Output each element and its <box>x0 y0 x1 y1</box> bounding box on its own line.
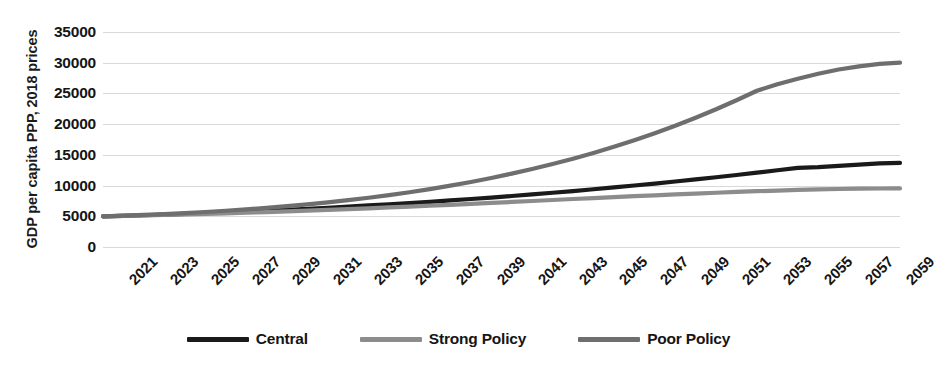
y-axis-tick-label: 30000 <box>26 54 96 72</box>
x-axis-tick-label: 2035 <box>412 253 447 288</box>
x-axis-tick-label: 2025 <box>207 253 242 288</box>
plot-area <box>103 32 900 247</box>
x-axis-tick-label: 2043 <box>575 253 610 288</box>
x-axis-tick-label: 2027 <box>248 253 283 288</box>
x-axis-tick-label: 2049 <box>698 253 733 288</box>
series-lines <box>103 32 900 247</box>
x-axis-tick-label: 2029 <box>289 253 324 288</box>
legend-item-poor-policy[interactable]: Poor Policy <box>578 330 730 348</box>
x-axis-tick-label: 2037 <box>452 253 487 288</box>
y-axis-tick-labels: 35000300002500020000150001000050000 <box>26 0 96 373</box>
legend-swatch <box>578 337 640 342</box>
legend-label: Central <box>256 330 308 348</box>
legend-item-strong-policy[interactable]: Strong Policy <box>360 330 526 348</box>
x-axis-tick-label: 2055 <box>820 253 855 288</box>
y-axis-tick-label: 10000 <box>26 177 96 195</box>
x-axis-tick-labels: 2021202320252027202920312033203520372039… <box>103 247 900 325</box>
x-axis-tick-label: 2057 <box>861 253 896 288</box>
legend-swatch <box>360 337 422 342</box>
x-axis-tick-label: 2039 <box>493 253 528 288</box>
x-axis-tick-label: 2059 <box>902 253 937 288</box>
y-axis-tick-label: 0 <box>26 238 96 256</box>
series-line-poor-policy <box>103 63 900 217</box>
x-axis-tick-label: 2033 <box>371 253 406 288</box>
x-axis-tick-label: 2053 <box>779 253 814 288</box>
x-axis-tick-label: 2023 <box>166 253 201 288</box>
y-axis-tick-label: 35000 <box>26 23 96 41</box>
x-axis-tick-label: 2047 <box>657 253 692 288</box>
y-axis-tick-label: 20000 <box>26 115 96 133</box>
legend-label: Strong Policy <box>429 330 526 348</box>
x-axis-tick-label: 2045 <box>616 253 651 288</box>
y-axis-tick-label: 15000 <box>26 146 96 164</box>
x-axis-tick-label: 2041 <box>534 253 569 288</box>
legend-item-central[interactable]: Central <box>187 330 308 348</box>
x-axis-tick-label: 2051 <box>738 253 773 288</box>
x-axis-tick-label: 2021 <box>125 253 160 288</box>
legend-label: Poor Policy <box>647 330 730 348</box>
x-axis-tick-label: 2031 <box>330 253 365 288</box>
y-axis-tick-label: 25000 <box>26 84 96 102</box>
y-axis-tick-label: 5000 <box>26 207 96 225</box>
chart-legend: CentralStrong PolicyPoor Policy <box>0 330 917 348</box>
legend-swatch <box>187 337 249 342</box>
